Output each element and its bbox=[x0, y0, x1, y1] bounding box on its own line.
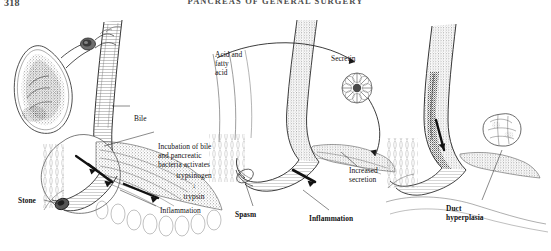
panel-left-artwork bbox=[0, 14, 232, 251]
common-channel-shape bbox=[239, 160, 319, 191]
label-inflammation-left: Inflammation bbox=[160, 206, 201, 215]
pancreatic-duct-shape bbox=[287, 20, 320, 162]
running-head: PANCREAS OF GENERAL SURGERY bbox=[0, 0, 551, 6]
hyperplastic-duct-shape bbox=[424, 24, 466, 170]
secretin-arc-out bbox=[368, 98, 380, 156]
panel-secretin-stimulation: Acid and fatty acid Secretin Increased s… bbox=[205, 14, 395, 251]
panel-biliary-obstruction: Bile Incubation of bile and pancreatic b… bbox=[0, 14, 232, 251]
label-incubation: Incubation of bile and pancreatic bacter… bbox=[158, 142, 211, 170]
label-inflammation-mid: Inflammation bbox=[309, 214, 353, 223]
label-bile: Bile bbox=[134, 114, 147, 123]
gallbladder-shape bbox=[14, 42, 90, 133]
gallstone-neck-shape bbox=[81, 38, 96, 50]
label-duct-hyperplasia: Duct hyperplasia bbox=[446, 204, 484, 222]
label-secretin: Secretin bbox=[331, 54, 356, 63]
label-spasm: Spasm bbox=[235, 210, 256, 219]
label-acid-fatty-acid: Acid and fatty acid bbox=[215, 50, 242, 78]
duct-nodule-shape bbox=[483, 114, 521, 146]
label-stone: Stone bbox=[18, 196, 36, 205]
textbook-page: 318 PANCREAS OF GENERAL SURGERY bbox=[0, 0, 551, 251]
panel-duct-hyperplasia: Duct hyperplasia bbox=[386, 14, 551, 251]
pancreatic-acinus-shape bbox=[342, 73, 372, 103]
label-increased-secretion: Increased secretion bbox=[349, 166, 378, 184]
